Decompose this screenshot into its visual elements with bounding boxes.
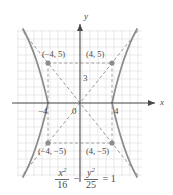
- x-axis: [12, 100, 155, 106]
- equals-one: = 1: [101, 173, 118, 184]
- exponent-2-x: 2: [63, 166, 66, 173]
- point-label-4-neg5: (4, −5): [86, 147, 109, 156]
- y-tick-label-3: 3: [83, 74, 88, 83]
- exponent-2-y: 2: [92, 166, 95, 173]
- y-axis-label: y: [84, 12, 88, 21]
- hyperbola-figure: y x (−4, 5) (4, 5) (−4, −5) (4, −5) −4 4…: [0, 0, 173, 195]
- point-neg4-5: [45, 60, 50, 65]
- fraction-x-squared-over-16: x2 16: [55, 166, 69, 190]
- equation: x2 16 − y2 25 = 1: [0, 166, 173, 190]
- point-neg4-neg5: [45, 140, 50, 145]
- x-axis-arrow: [148, 100, 155, 106]
- point-label-4-5: (4, 5): [86, 50, 104, 59]
- x-tick-label-neg4: −4: [38, 107, 48, 116]
- point-4-neg5: [109, 140, 114, 145]
- fraction-y-squared-over-25: y2 25: [84, 166, 98, 190]
- numerator-y-squared: y2: [84, 166, 98, 180]
- x-tick-label-4: 4: [114, 107, 119, 116]
- point-label-neg4-neg5: (−4, −5): [38, 147, 66, 156]
- numerator-x-squared: x2: [55, 166, 69, 180]
- denominator-16: 16: [55, 180, 69, 191]
- denominator-25: 25: [84, 180, 98, 191]
- minus-operator: −: [72, 173, 82, 184]
- point-label-neg4-5: (−4, 5): [42, 50, 65, 59]
- y-axis-arrow: [77, 24, 83, 31]
- origin-label: 0: [72, 107, 77, 116]
- point-4-5: [109, 60, 114, 65]
- x-axis-label: x: [160, 98, 164, 107]
